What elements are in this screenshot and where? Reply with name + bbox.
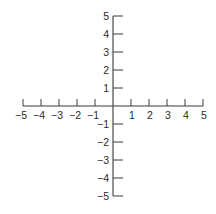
y-tick-label: −3 bbox=[97, 154, 109, 166]
coordinate-plane-figure: −5−4−3−2−112345 54321−1−2−3−4−5 bbox=[0, 0, 216, 214]
y-tick-label: −5 bbox=[97, 190, 109, 202]
x-tick-label: −2 bbox=[69, 109, 81, 121]
x-axis-tick-labels: −5−4−3−2−112345 bbox=[15, 109, 207, 121]
y-tick-label: 5 bbox=[103, 10, 109, 22]
y-tick-label: 1 bbox=[103, 82, 109, 94]
x-tick-label: 1 bbox=[129, 109, 135, 121]
x-tick-label: −5 bbox=[15, 109, 27, 121]
y-tick-label: −2 bbox=[97, 136, 109, 148]
x-tick-label: −3 bbox=[51, 109, 63, 121]
x-tick-label: 4 bbox=[183, 109, 189, 121]
x-tick-label: 3 bbox=[165, 109, 171, 121]
x-tick-label: −4 bbox=[33, 109, 45, 121]
y-tick-label: 2 bbox=[103, 64, 109, 76]
y-tick-label: −1 bbox=[97, 118, 109, 130]
x-tick-label: 2 bbox=[147, 109, 153, 121]
y-tick-label: −4 bbox=[97, 172, 109, 184]
y-tick-label: 4 bbox=[103, 28, 109, 40]
x-tick-label: 5 bbox=[201, 109, 207, 121]
y-tick-label: 3 bbox=[103, 46, 109, 58]
axes-canvas: −5−4−3−2−112345 54321−1−2−3−4−5 bbox=[0, 0, 216, 214]
